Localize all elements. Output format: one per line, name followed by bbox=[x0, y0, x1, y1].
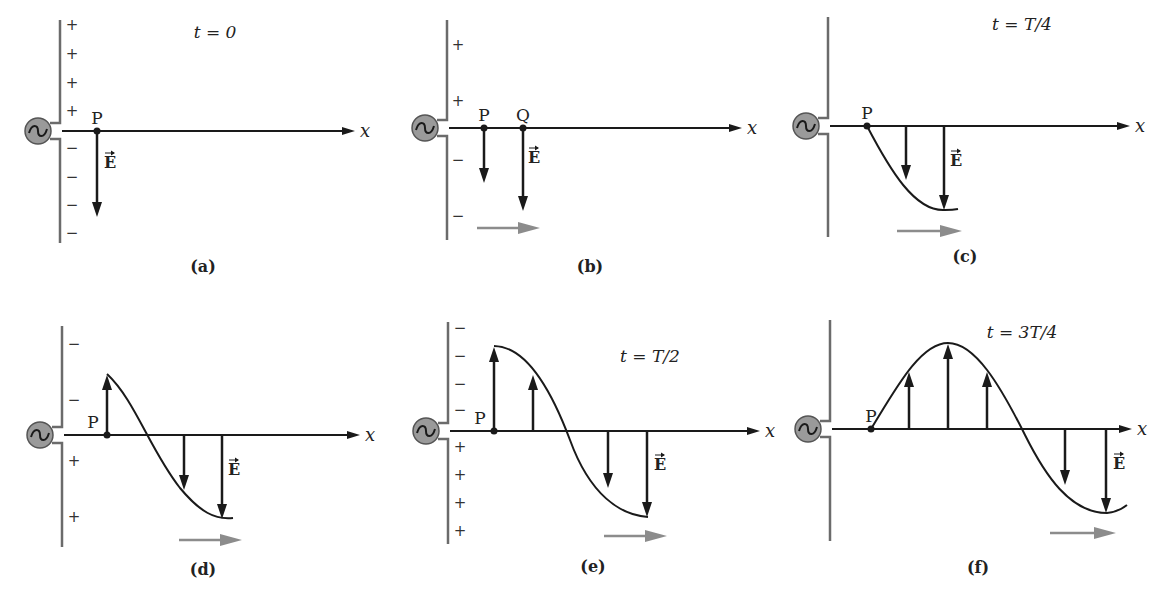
positive-charge: + bbox=[452, 36, 465, 54]
point-p bbox=[864, 123, 871, 130]
positive-charge: + bbox=[66, 102, 79, 120]
field-label-text: E bbox=[104, 153, 116, 172]
positive-charge: + bbox=[454, 494, 467, 512]
point-label-p: P bbox=[87, 412, 98, 432]
negative-charge: − bbox=[454, 401, 467, 419]
arrow-down-icon bbox=[603, 473, 613, 488]
time-label: t = 3T/4 bbox=[987, 322, 1058, 342]
point-label-p: P bbox=[474, 408, 485, 428]
point-q bbox=[520, 125, 527, 132]
negative-charge: − bbox=[454, 347, 467, 365]
arrow-up-icon bbox=[943, 344, 953, 359]
field-label-text: E bbox=[228, 460, 240, 479]
field-label-e: E bbox=[228, 458, 240, 480]
point-p bbox=[491, 428, 498, 435]
field-label-e: E bbox=[528, 146, 540, 168]
point-p bbox=[94, 128, 101, 135]
x-axis-label: x bbox=[1137, 418, 1147, 439]
panel-c: xPEt = T/4(c) bbox=[793, 14, 1145, 266]
arrow-down-icon bbox=[479, 168, 489, 183]
positive-charge: + bbox=[68, 508, 81, 526]
panel-b: x++−−PQE(b) bbox=[412, 20, 757, 276]
ac-source-icon bbox=[793, 113, 819, 139]
arrow-up-icon bbox=[489, 347, 499, 362]
positive-charge: + bbox=[66, 16, 79, 34]
arrow-down-icon bbox=[642, 502, 652, 517]
point-label-p: P bbox=[478, 105, 489, 125]
field-label-text: E bbox=[654, 455, 666, 474]
negative-charge: − bbox=[66, 139, 79, 157]
panel-caption: (f) bbox=[967, 558, 989, 577]
negative-charge: − bbox=[66, 224, 79, 242]
x-axis-label: x bbox=[365, 424, 375, 445]
field-label-e: E bbox=[654, 453, 666, 475]
propagation-arrowhead-icon bbox=[1094, 527, 1116, 539]
point-p bbox=[104, 432, 111, 439]
point-label-p: P bbox=[865, 406, 876, 426]
panel-e: x−−−−++++PEt = T/2(e) bbox=[413, 319, 775, 576]
x-axis-label: x bbox=[1135, 115, 1145, 136]
field-label-text: E bbox=[950, 151, 962, 170]
x-axis-label: x bbox=[765, 420, 775, 441]
arrow-down-icon bbox=[1101, 498, 1111, 513]
panel-a: x++++−−−−PEt = 0(a) bbox=[25, 16, 370, 276]
point-p bbox=[868, 426, 875, 433]
positive-charge: + bbox=[66, 45, 79, 63]
arrow-down-icon bbox=[1060, 470, 1070, 485]
ac-source-icon bbox=[27, 422, 53, 448]
point-label-p: P bbox=[861, 103, 872, 123]
x-axis-arrowhead-icon bbox=[747, 427, 760, 435]
negative-charge: − bbox=[68, 391, 81, 409]
positive-charge: + bbox=[454, 438, 467, 456]
x-axis-label: x bbox=[360, 120, 370, 141]
time-label: t = T/2 bbox=[620, 346, 680, 366]
negative-charge: − bbox=[452, 207, 465, 225]
field-label-e: E bbox=[950, 149, 962, 171]
negative-charge: − bbox=[68, 335, 81, 353]
figure-canvas: x++++−−−−PEt = 0(a)x++−−PQE(b)xPEt = T/4… bbox=[0, 0, 1173, 595]
x-axis-arrowhead-icon bbox=[342, 127, 355, 135]
ac-source-icon bbox=[795, 416, 821, 442]
x-axis-label: x bbox=[747, 117, 757, 138]
panel-f: xPEt = 3T/4(f) bbox=[795, 320, 1147, 577]
field-label-text: E bbox=[1113, 454, 1125, 473]
panel-caption: (b) bbox=[577, 257, 603, 276]
point-p bbox=[481, 125, 488, 132]
panel-d: x−−++PE(d) bbox=[27, 326, 375, 579]
positive-charge: + bbox=[66, 74, 79, 92]
positive-charge: + bbox=[68, 452, 81, 470]
propagation-arrowhead-icon bbox=[940, 225, 962, 237]
x-axis-arrowhead-icon bbox=[347, 431, 360, 439]
field-label-text: E bbox=[528, 148, 540, 167]
field-label-e: E bbox=[104, 151, 116, 173]
negative-charge: − bbox=[66, 196, 79, 214]
positive-charge: + bbox=[452, 92, 465, 110]
panel-caption: (c) bbox=[953, 247, 978, 266]
arrow-down-icon bbox=[939, 195, 949, 210]
propagation-arrowhead-icon bbox=[220, 534, 242, 546]
time-label: t = 0 bbox=[194, 22, 237, 42]
arrow-up-icon bbox=[528, 375, 538, 390]
arrow-down-icon bbox=[518, 196, 528, 211]
positive-charge: + bbox=[454, 522, 467, 540]
positive-charge: + bbox=[454, 466, 467, 484]
arrow-down-icon bbox=[92, 202, 102, 217]
point-label-p: P bbox=[91, 108, 102, 128]
ac-source-icon bbox=[25, 118, 51, 144]
propagation-arrowhead-icon bbox=[645, 530, 667, 542]
propagation-arrowhead-icon bbox=[518, 222, 540, 234]
point-label-q: Q bbox=[516, 105, 530, 125]
panel-caption: (d) bbox=[190, 560, 216, 579]
x-axis-arrowhead-icon bbox=[729, 124, 742, 132]
negative-charge: − bbox=[454, 319, 467, 337]
panels-group: x++++−−−−PEt = 0(a)x++−−PQE(b)xPEt = T/4… bbox=[25, 14, 1147, 579]
negative-charge: − bbox=[452, 151, 465, 169]
negative-charge: − bbox=[66, 168, 79, 186]
panel-caption: (e) bbox=[580, 557, 605, 576]
arrow-down-icon bbox=[901, 165, 911, 180]
negative-charge: − bbox=[454, 375, 467, 393]
ac-source-icon bbox=[413, 418, 439, 444]
time-label: t = T/4 bbox=[992, 14, 1052, 34]
x-axis-arrowhead-icon bbox=[1117, 122, 1130, 130]
panel-caption: (a) bbox=[190, 257, 216, 276]
